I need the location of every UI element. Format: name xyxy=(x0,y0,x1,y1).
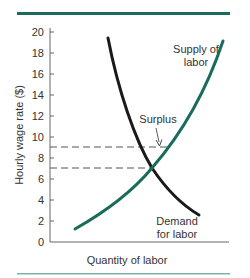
y-tick-16: 16 xyxy=(32,68,44,80)
y-tick-14: 14 xyxy=(32,89,44,101)
y-tick-18: 18 xyxy=(32,47,44,59)
y-tick-labels: 20 18 16 14 12 10 8 6 4 2 0 xyxy=(32,26,44,248)
supply-label-line1: Supply of xyxy=(173,43,220,55)
supply-label-line2: labor xyxy=(184,56,209,68)
y-tick-2: 2 xyxy=(38,215,44,227)
y-tick-4: 4 xyxy=(38,194,44,206)
demand-label-line2: for labor xyxy=(157,228,198,240)
y-tick-0: 0 xyxy=(38,236,44,248)
labor-market-chart: 20 18 16 14 12 10 8 6 4 2 0 Hourly wage … xyxy=(0,0,250,278)
bottom-rule xyxy=(17,273,230,275)
surplus-label: Surplus xyxy=(139,113,177,125)
y-tick-12: 12 xyxy=(32,110,44,122)
top-rule xyxy=(17,12,230,15)
y-tick-8: 8 xyxy=(38,152,44,164)
supply-curve xyxy=(75,41,223,229)
y-tick-10: 10 xyxy=(32,131,44,143)
demand-label-line1: Demand xyxy=(156,215,198,227)
y-ticks xyxy=(50,32,54,221)
x-axis-title: Quantity of labor xyxy=(87,254,168,266)
y-tick-20: 20 xyxy=(32,26,44,38)
y-axis-title: Hourly wage rate ($) xyxy=(13,85,25,185)
y-tick-6: 6 xyxy=(38,173,44,185)
